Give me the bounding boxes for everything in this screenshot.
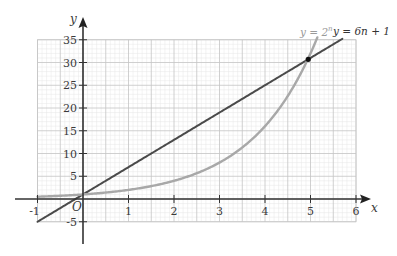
x-tick-label: 3 — [216, 205, 223, 218]
x-tick-label: 2 — [171, 205, 178, 218]
legend-exp-label: y = 2n — [299, 25, 333, 38]
y-tick-label: 20 — [63, 102, 77, 115]
legend-exp-base: y = 2 — [299, 26, 328, 38]
x-tick-label: 4 — [262, 205, 269, 218]
y-tick-label: 30 — [63, 57, 77, 70]
y-axis-label: y — [69, 12, 77, 26]
x-tick-label: -1 — [29, 205, 40, 218]
x-axis-label: x — [371, 201, 378, 215]
origin-label: O — [72, 200, 82, 214]
y-tick-label: 5 — [70, 170, 77, 183]
y-tick-label: -5 — [66, 216, 77, 229]
y-tick-label: 25 — [63, 79, 77, 92]
legend-line-label: y = 6n + 1 — [332, 25, 390, 37]
x-tick-label: 1 — [125, 205, 132, 218]
intersection-point — [306, 57, 311, 62]
y-tick-label: 10 — [63, 148, 77, 161]
x-tick-label: 6 — [353, 205, 360, 218]
chart: -1123456-55101520253035 x y O y = 2n y =… — [0, 0, 397, 256]
y-tick-label: 35 — [63, 34, 77, 47]
y-tick-label: 15 — [63, 125, 77, 138]
x-tick-label: 5 — [307, 205, 314, 218]
